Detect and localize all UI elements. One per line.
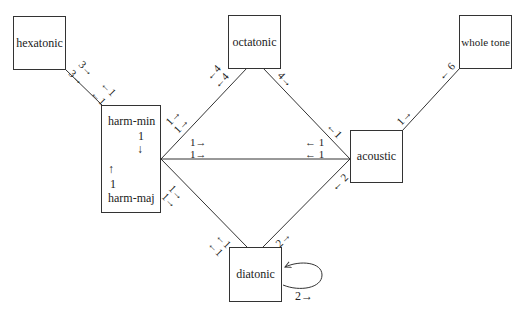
node-label: whole tone [461, 36, 510, 48]
edge-label: ← 1 [305, 149, 324, 160]
node-hexatonic: hexatonic [13, 16, 66, 70]
node-label: octatonic [233, 35, 277, 50]
node-diatonic: diatonic [229, 247, 282, 302]
node-harm-min: harm-min 1 ↓ [101, 105, 161, 160]
edge-diatonic-acoustic [263, 159, 350, 247]
down-arrow-icon: ↓ [137, 142, 143, 157]
harm-maj-count: 1 [110, 177, 116, 192]
node-label: harm-maj [108, 191, 155, 206]
edge-acoustic-whole-tone [402, 68, 460, 131]
node-label: acoustic [357, 149, 396, 164]
node-acoustic: acoustic [350, 130, 403, 183]
edge-label: 1→ [190, 149, 207, 160]
node-label: harm-min [108, 114, 155, 129]
edge-label: ← 1 [305, 137, 324, 148]
edge-label: 1→ [190, 137, 207, 148]
node-octatonic: octatonic [228, 15, 281, 69]
up-arrow-icon: ↑ [108, 162, 114, 177]
node-harm-maj: ↑ 1 harm-maj [101, 160, 161, 213]
node-whole-tone: whole tone [459, 15, 512, 69]
edge-label: 2→ [295, 291, 313, 302]
edge-diatonic-loop [283, 263, 322, 288]
node-label: hexatonic [16, 36, 63, 51]
node-label: diatonic [236, 267, 275, 282]
